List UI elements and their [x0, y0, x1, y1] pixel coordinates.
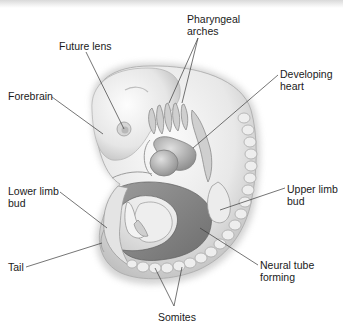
label-line: bud [287, 195, 338, 207]
label-line: Pharyngeal [187, 13, 240, 25]
label-line: Forebrain [8, 90, 53, 102]
label-developing-heart: Developing heart [280, 68, 333, 92]
leader-lower-limb-bud [60, 192, 107, 228]
label-line: arches [187, 25, 240, 37]
label-line: bud [8, 197, 59, 209]
leader-tail [26, 243, 102, 267]
label-somites: Somites [158, 311, 196, 323]
label-forebrain: Forebrain [8, 90, 53, 102]
label-pharyngeal-arches: Pharyngeal arches [187, 13, 240, 37]
label-future-lens: Future lens [59, 40, 112, 52]
label-line: Somites [158, 311, 196, 323]
label-upper-limb-bud: Upper limb bud [287, 183, 338, 207]
label-line: Neural tube [260, 259, 314, 271]
label-line: Upper limb [287, 183, 338, 195]
label-line: Lower limb [8, 185, 59, 197]
label-line: heart [280, 80, 333, 92]
label-tail: Tail [8, 261, 24, 273]
label-line: Future lens [59, 40, 112, 52]
label-lower-limb-bud: Lower limb bud [8, 185, 59, 209]
label-line: forming [260, 271, 314, 283]
label-line: Tail [8, 261, 24, 273]
label-neural-tube-forming: Neural tube forming [260, 259, 314, 283]
label-line: Developing [280, 68, 333, 80]
